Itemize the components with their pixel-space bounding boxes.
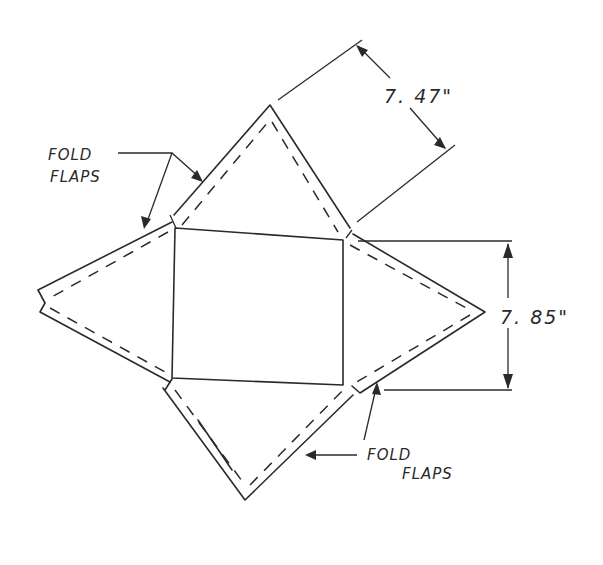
fold-flaps-label-bottom-line2: FLAPS (402, 465, 453, 483)
fold-flaps-label-top-line1: FOLD (48, 146, 92, 164)
base-dimension-label: 7. 85" (500, 306, 569, 328)
slant-dimension: 7. 47" (278, 40, 455, 222)
arrowhead-icon (305, 450, 316, 460)
fold-flaps-label-top-line2: FLAPS (50, 168, 101, 186)
arrowhead-icon (434, 137, 446, 149)
slant-dimension-label: 7. 47" (384, 85, 453, 107)
fold-flaps-label-bottom-line1: FOLD (367, 446, 411, 464)
arrowhead-icon (141, 216, 151, 229)
bottom-triangle-face (163, 379, 353, 500)
pyramid-net-diagram: 7. 47" 7. 85" FOLD FLAPS FOLD FLAPS (0, 0, 603, 565)
fold-flaps-callout-top: FOLD FLAPS (48, 146, 203, 229)
left-triangle-face (38, 222, 172, 382)
base-dimension: 7. 85" (358, 241, 569, 390)
arrowhead-icon (356, 45, 368, 57)
right-triangle-face (350, 234, 485, 393)
square-base (172, 228, 343, 385)
arrowhead-icon (503, 374, 513, 389)
fold-flaps-callout-bottom: FOLD FLAPS (305, 382, 453, 483)
arrowhead-icon (503, 243, 513, 258)
